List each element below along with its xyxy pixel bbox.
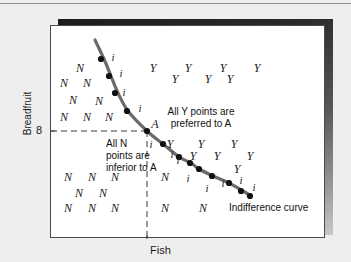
y-axis-tick-label: 8 [36, 124, 42, 136]
x-axis-label: Fish [150, 244, 171, 256]
marker-n: N [111, 170, 119, 185]
marker-y: Y [167, 137, 174, 152]
marker-n: N [75, 186, 83, 201]
curve-data-point [144, 128, 150, 134]
curve-data-point [209, 173, 215, 179]
marker-n: N [83, 76, 91, 91]
marker-y: Y [231, 137, 238, 152]
marker-n: N [60, 110, 68, 125]
curve-data-point [112, 90, 118, 96]
marker-y: Y [172, 72, 179, 87]
point-a-label: A [151, 117, 158, 132]
marker-y: Y [254, 61, 261, 76]
marker-n: N [99, 186, 107, 201]
y-axis-label: Breadfruit [22, 74, 33, 154]
marker-n: N [161, 201, 169, 216]
plot-area: All Y points are preferred to A All N po… [51, 26, 324, 237]
curve-data-point [196, 166, 202, 172]
preferred-note-line2: preferred to A [171, 118, 232, 129]
plot-panel: All Y points are preferred to A All N po… [50, 25, 325, 238]
curve-data-point [226, 180, 232, 186]
marker-i: i [149, 138, 152, 150]
marker-n: N [76, 61, 84, 76]
marker-y: Y [185, 61, 192, 76]
marker-i: i [111, 51, 114, 63]
marker-y: Y [150, 61, 157, 76]
marker-i: i [119, 67, 122, 79]
marker-n: N [161, 170, 169, 185]
page-top-rule [0, 3, 351, 4]
marker-n: N [64, 201, 72, 216]
preferred-note-line1-text: All Y points are [168, 106, 235, 117]
marker-y: Y [234, 162, 241, 177]
curve-data-point [160, 141, 166, 147]
curve-data-point [106, 73, 112, 79]
marker-y: Y [220, 61, 227, 76]
marker-n: N [88, 201, 96, 216]
preferred-note-line2-text: preferred to A [171, 118, 232, 129]
indifference-curve-label: Indifference curve [229, 202, 308, 213]
preferred-note: All Y points are preferred to A [168, 106, 235, 130]
marker-y: Y [247, 149, 254, 164]
marker-y: Y [190, 149, 197, 164]
inferior-note-line2-text: points are [106, 150, 150, 161]
marker-n: N [105, 110, 113, 125]
marker-i: i [122, 86, 125, 98]
marker-i: i [221, 177, 224, 189]
inferior-note-line1-text: All N [106, 138, 127, 149]
marker-n: N [88, 170, 96, 185]
curve-data-point [98, 56, 104, 62]
marker-i: i [205, 182, 208, 194]
curve-data-point [247, 193, 253, 199]
marker-i: i [176, 154, 179, 166]
marker-n: N [111, 201, 119, 216]
curve-data-point [238, 188, 244, 194]
figure-root: Breadfruit 8 8 Fish All Y points are pre… [0, 0, 351, 262]
preferred-note-line1: All Y points are [168, 106, 235, 117]
marker-y: Y [205, 72, 212, 87]
curve-data-point [124, 108, 130, 114]
marker-y: Y [214, 149, 221, 164]
marker-i: i [138, 102, 141, 114]
marker-n: N [83, 110, 91, 125]
marker-n: N [64, 170, 72, 185]
marker-i: i [252, 181, 255, 193]
marker-n: N [199, 201, 207, 216]
marker-y: Y [227, 72, 234, 87]
marker-i: i [186, 172, 189, 184]
marker-y: Y [198, 137, 205, 152]
marker-n: N [60, 76, 68, 91]
marker-n: N [69, 93, 77, 108]
marker-n: N [95, 94, 103, 109]
